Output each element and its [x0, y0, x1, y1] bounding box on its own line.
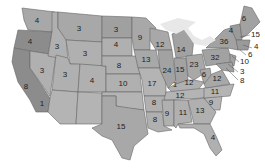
state-value-label: 12 [185, 79, 194, 87]
callout-value-label: 3 [240, 68, 244, 76]
state-value-label: 3 [114, 26, 118, 34]
state-value-label: 4 [211, 134, 215, 142]
state-value-label: 13 [142, 56, 151, 64]
state-value-label: 11 [211, 88, 219, 96]
state-value-label: 23 [190, 61, 199, 69]
state-value-label: 24 [163, 67, 172, 75]
state-value-label: 12 [213, 75, 222, 83]
state-value-label: 8 [152, 99, 156, 107]
state-value-label: 15 [117, 123, 126, 131]
state-value-label: 1 [173, 81, 177, 89]
state-value-label: 15 [176, 66, 185, 74]
state-value-label: 3 [40, 67, 44, 75]
state-value-label: 3 [63, 71, 67, 79]
state-value-label: 32 [211, 54, 220, 62]
state-value-label: 6 [202, 71, 206, 79]
state-value-label: 4 [229, 27, 233, 35]
state-new-mexico [76, 92, 102, 124]
state-value-label: 12 [176, 92, 185, 100]
state-arizona [48, 90, 78, 124]
state-value-label: 10 [119, 80, 128, 88]
callout-value-label: 15 [251, 31, 260, 39]
state-value-label: 9 [138, 34, 142, 42]
state-maryland-delaware [216, 62, 234, 72]
state-value-label: 4 [28, 38, 32, 46]
state-value-label: 36 [220, 38, 229, 46]
callout-value-label: 4 [254, 43, 258, 51]
state-value-label: 17 [148, 80, 157, 88]
state-florida [178, 124, 222, 156]
state-value-label: 3 [55, 43, 59, 51]
state-value-label: 9 [209, 99, 213, 107]
state-value-label: 11 [179, 109, 187, 117]
callout-value-label: 8 [240, 77, 244, 85]
state-value-label: 4 [35, 17, 39, 25]
state-value-label: 13 [196, 107, 205, 115]
state-value-label: 1 [40, 100, 44, 108]
state-value-label: 3 [83, 50, 87, 58]
state-value-label: 14 [177, 46, 186, 54]
state-value-label: 12 [156, 41, 165, 49]
state-value-label: 8 [24, 83, 28, 91]
state-value-label: 3 [77, 25, 81, 33]
state-value-label: 8 [153, 116, 157, 124]
callout-value-label: 10 [240, 58, 249, 66]
state-value-label: 4 [90, 77, 94, 85]
state-value-label: 6 [242, 15, 246, 23]
state-value-label: 8 [117, 62, 121, 70]
us-map [0, 0, 265, 168]
state-value-label: 9 [165, 110, 169, 118]
state-value-label: 4 [114, 41, 118, 49]
